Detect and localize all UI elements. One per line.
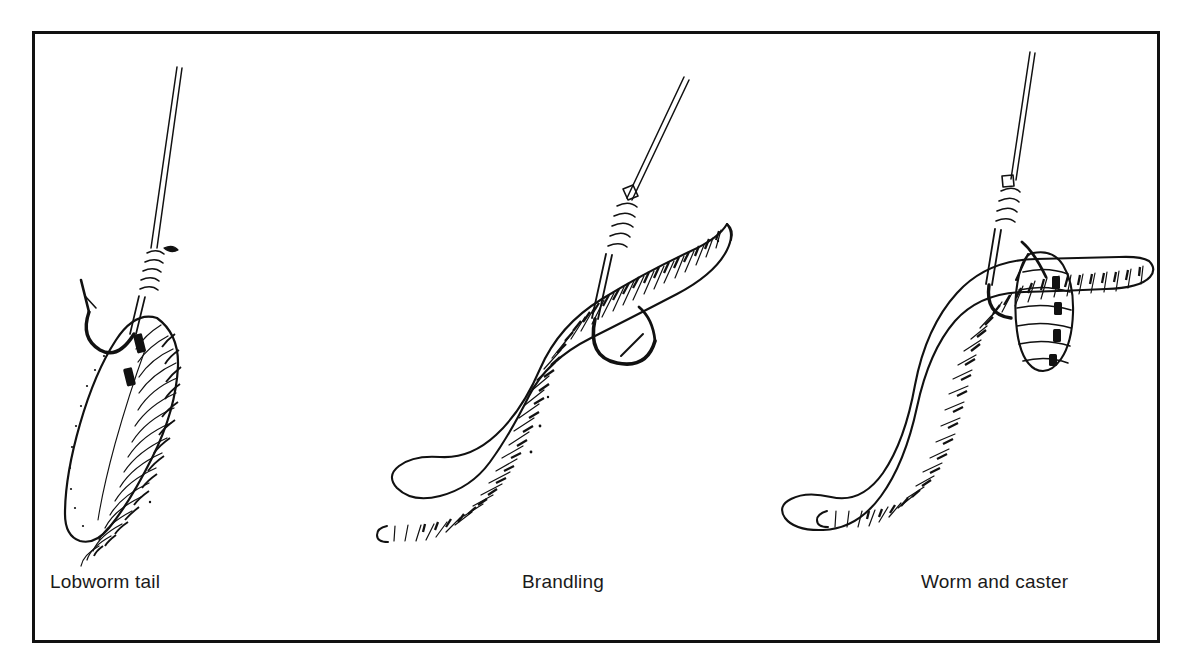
- caption-worm-and-caster: Worm and caster: [921, 571, 1068, 593]
- hook-eye: [623, 185, 638, 200]
- caption-brandling: Brandling: [522, 571, 604, 593]
- hook-barb: [621, 334, 643, 356]
- worm-speckles: [530, 240, 720, 454]
- fishing-line: [151, 67, 182, 248]
- whipping-knot: [140, 251, 164, 290]
- hook-eye: [1002, 175, 1014, 187]
- brandling-illustration: [335, 34, 765, 594]
- whipping-knot: [996, 188, 1020, 222]
- worm-shading-ticks: [867, 267, 1140, 519]
- worm-centre-crease: [98, 350, 145, 520]
- worm-tail-tip: [817, 511, 828, 527]
- worm-body: [782, 257, 1153, 530]
- figure-border-frame: Lobworm tail: [32, 31, 1160, 643]
- worm-tail-tip: [377, 526, 388, 542]
- caption-lobworm-tail: Lobworm tail: [50, 571, 160, 593]
- fishing-line: [1011, 52, 1035, 180]
- hook-bend: [593, 319, 655, 364]
- panel-worm-and-caster: Worm and caster: [765, 34, 1163, 640]
- figure-root: Lobworm tail: [0, 0, 1188, 669]
- hook-shank: [130, 296, 145, 334]
- hook-bend: [86, 312, 134, 353]
- panel-brandling: Brandling: [335, 34, 765, 640]
- worm-shading-ticks: [423, 231, 719, 532]
- worm-segment-rings: [81, 325, 177, 566]
- knot-tag-end: [164, 246, 178, 251]
- caster-segment-rings: [1017, 269, 1071, 363]
- whipping-knot: [608, 203, 637, 247]
- worm-and-caster-illustration: [765, 34, 1163, 594]
- hook-shank: [986, 229, 1001, 285]
- fishing-line: [627, 77, 689, 200]
- worm-stipple: [69, 355, 151, 527]
